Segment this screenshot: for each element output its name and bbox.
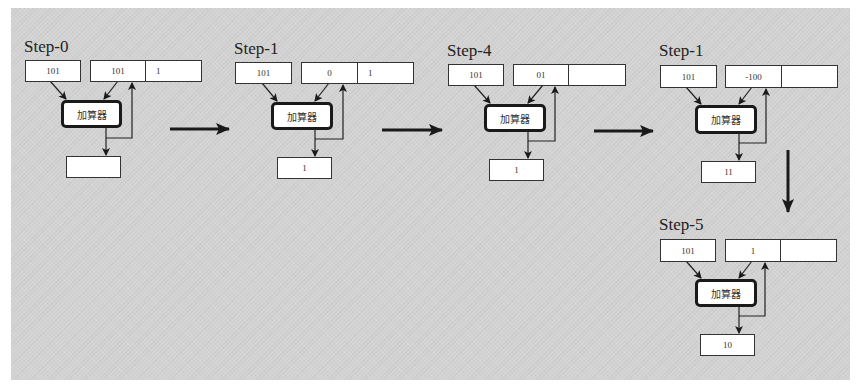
input-a-box: 101 bbox=[235, 62, 292, 84]
adder-block: 加算器 bbox=[61, 100, 122, 128]
output-box: 11 bbox=[701, 161, 756, 183]
register-low-box bbox=[781, 65, 838, 88]
input-a-box: 101 bbox=[660, 239, 716, 262]
output-box: 1 bbox=[489, 159, 544, 181]
register-high-box: 01 bbox=[513, 64, 569, 86]
register-high-box: 101 bbox=[90, 60, 146, 82]
step-title: Step-0 bbox=[24, 38, 68, 55]
step-title: Step-4 bbox=[447, 42, 491, 59]
step-title: Step-1 bbox=[234, 40, 278, 57]
output-box: 10 bbox=[700, 334, 755, 356]
input-a-box: 101 bbox=[660, 65, 717, 88]
adder-block: 加算器 bbox=[271, 102, 333, 130]
register-high-box: -100 bbox=[725, 65, 782, 88]
input-a-box: 101 bbox=[448, 64, 504, 86]
step-title: Step-1 bbox=[659, 42, 703, 59]
adder-block: 加算器 bbox=[695, 105, 757, 134]
register-high-box: 0 bbox=[301, 62, 358, 84]
output-box bbox=[66, 156, 121, 178]
input-a-box: 101 bbox=[25, 60, 81, 82]
register-low-box: 1 bbox=[145, 60, 202, 82]
register-low-box bbox=[568, 64, 626, 86]
register-low-box: 1 bbox=[357, 62, 414, 84]
register-high-box: 1 bbox=[725, 239, 781, 262]
output-box: 1 bbox=[277, 157, 332, 179]
adder-block: 加算器 bbox=[695, 279, 757, 307]
adder-block: 加算器 bbox=[484, 104, 546, 132]
register-low-box bbox=[780, 239, 837, 262]
step-title: Step-5 bbox=[659, 216, 703, 233]
